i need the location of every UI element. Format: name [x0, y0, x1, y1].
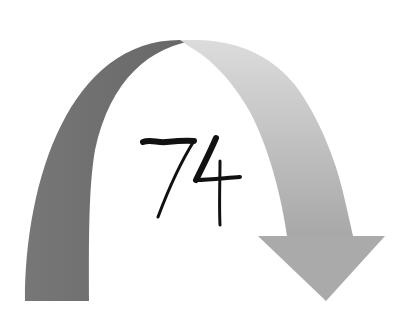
arrowhead: [258, 236, 385, 301]
arc-left-segment: [25, 40, 200, 301]
curved-arrow-diagram: 74: [0, 0, 417, 320]
label-74-glyphs: [143, 138, 240, 225]
arrow-graphic: [0, 0, 417, 320]
arc-right-segment: [180, 40, 353, 236]
